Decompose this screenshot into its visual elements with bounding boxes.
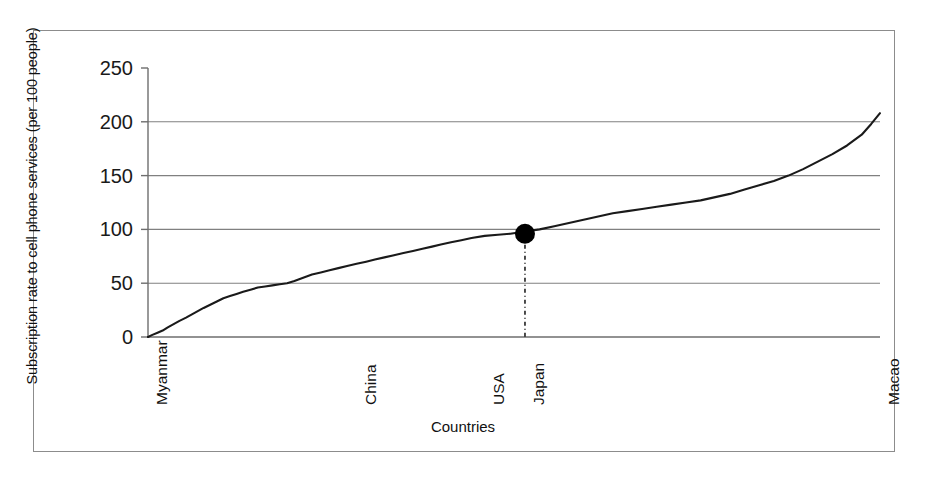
x-axis-title: Countries xyxy=(0,418,926,435)
gridlines xyxy=(148,68,880,283)
japan-marker-dot xyxy=(515,224,535,244)
y-tick-label-200: 200 xyxy=(71,112,133,132)
y-tick-label-0: 0 xyxy=(71,327,133,347)
y-tick-label-250: 250 xyxy=(71,58,133,78)
y-tick-label-150: 150 xyxy=(71,166,133,186)
plot-area xyxy=(0,0,926,479)
x-tick-label-china: China xyxy=(362,365,380,406)
data-series-line xyxy=(148,113,880,337)
x-tick-label-japan: Japan xyxy=(530,363,548,405)
y-tick-marks xyxy=(141,68,148,337)
x-tick-label-macao: Macao xyxy=(885,358,903,405)
y-tick-label-100: 100 xyxy=(71,219,133,239)
y-tick-label-50: 50 xyxy=(71,273,133,293)
x-tick-label-myanmar: Myanmar xyxy=(153,340,171,405)
x-tick-label-usa: USA xyxy=(490,373,508,405)
chart-figure: Subscription rate to cell phone services… xyxy=(0,0,926,479)
